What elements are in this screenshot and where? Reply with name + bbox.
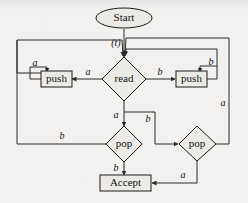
- accept-label: Accept: [110, 176, 141, 188]
- edge-label-pop-right-to-accept: a: [181, 169, 186, 180]
- edge-label-push-right-loop: b: [209, 56, 214, 67]
- edge-label-pop-left-to-accept: b: [114, 162, 119, 173]
- node-read: read: [102, 57, 146, 101]
- edge-pop-right-to-accept: [152, 161, 197, 183]
- edge-label-pop-right-to-read: a: [221, 97, 226, 108]
- push-left-label: push: [46, 72, 67, 84]
- node-accept: Accept: [100, 175, 151, 191]
- node-pop-right: pop: [179, 126, 216, 161]
- pop-left-label: pop: [116, 137, 133, 149]
- edge-label-pop-left-to-read: b: [60, 130, 65, 141]
- node-push-right: push: [176, 71, 207, 87]
- flowchart-canvas: Start read push push pop pop: [0, 0, 248, 203]
- edge-label-read-to-pop-left: a: [114, 109, 119, 120]
- node-start: Start: [96, 8, 152, 28]
- edge-pop-left-to-read: [17, 40, 106, 144]
- edge-push-right-to-read: [125, 49, 217, 66]
- edge-label-read-to-pop-right: b: [146, 113, 151, 124]
- pop-right-label: pop: [189, 137, 206, 149]
- node-push-left: push: [41, 71, 72, 87]
- edge-label-start-to-read: (t): [111, 37, 121, 49]
- push-right-label: push: [181, 72, 202, 84]
- read-label: read: [115, 72, 134, 84]
- node-pop-left: pop: [106, 126, 142, 162]
- flowchart-diagram: Start read push push pop pop: [0, 0, 248, 203]
- start-label: Start: [114, 11, 135, 23]
- edge-label-push-left-loop: a: [33, 57, 38, 68]
- edge-label-read-to-push-left: a: [86, 66, 91, 77]
- edge-pop-right-to-read: [125, 38, 229, 144]
- edge-label-read-to-push-right: b: [158, 66, 163, 77]
